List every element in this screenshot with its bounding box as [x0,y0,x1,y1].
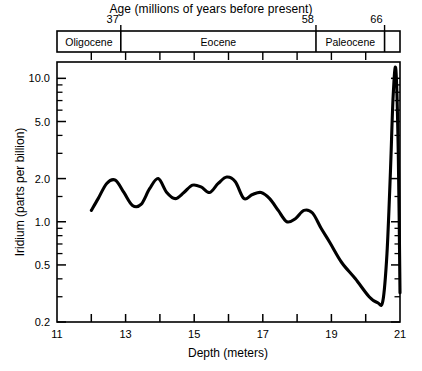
chart-canvas: OligoceneEocenePaleocene 375866 0.20.51.… [0,0,422,371]
x-tick-label: 17 [257,328,269,340]
iridium-depth-figure: Age (millions of years before present) O… [0,0,422,371]
epoch-label-oligocene: Oligocene [65,36,112,48]
y-axis-title: Iridium (parts per billion) [13,128,27,257]
y-tick-label: 0.5 [35,259,50,271]
iridium-data-curve [91,67,400,305]
epoch-label-paleocene: Paleocene [325,36,375,48]
y-axis-ticks [57,78,400,322]
y-tick-label: 1.0 [35,216,50,228]
plot-frame [57,62,400,322]
y-tick-label: 10.0 [29,72,50,84]
x-tick-label: 15 [188,328,200,340]
x-axis-title: Depth (meters) [188,346,268,360]
x-tick-label: 19 [325,328,337,340]
y-axis-tick-labels: 0.20.51.02.05.010.0 [29,72,50,328]
age-epoch-band: OligoceneEocenePaleocene [57,25,400,60]
x-tick-label: 13 [119,328,131,340]
x-tick-label: 11 [51,328,62,340]
y-tick-label: 5.0 [35,116,50,128]
x-tick-label: 21 [394,328,406,340]
epoch-label-eocene: Eocene [201,36,237,48]
y-tick-label: 0.2 [35,316,50,328]
x-axis-tick-labels: 111315171921 [51,328,406,340]
top-axis-title: Age (millions of years before present) [0,2,422,16]
y-tick-label: 2.0 [35,173,50,185]
x-axis-ticks [91,314,365,322]
